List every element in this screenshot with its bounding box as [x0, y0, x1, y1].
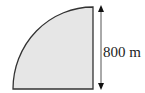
arrow-down-icon — [98, 83, 104, 90]
quarter-circle-shape — [13, 7, 93, 89]
arrow-up-icon — [98, 5, 104, 12]
dimension-label: 800 m — [103, 44, 141, 61]
